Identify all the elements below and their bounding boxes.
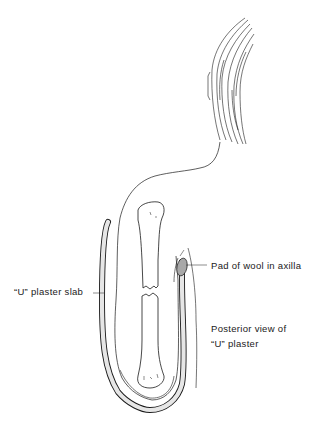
posterior-view-label-line1: Posterior view of bbox=[211, 322, 286, 335]
posterior-view-label-line2: “U” plaster bbox=[211, 337, 259, 350]
slab-label: “U” plaster slab bbox=[14, 285, 83, 298]
plaster-diagram bbox=[0, 0, 323, 435]
head-hair-icon bbox=[208, 18, 254, 144]
pad-label: Pad of wool in axilla bbox=[211, 259, 301, 272]
shoulder-outline bbox=[120, 142, 220, 218]
humerus-lower-fragment bbox=[138, 293, 164, 388]
